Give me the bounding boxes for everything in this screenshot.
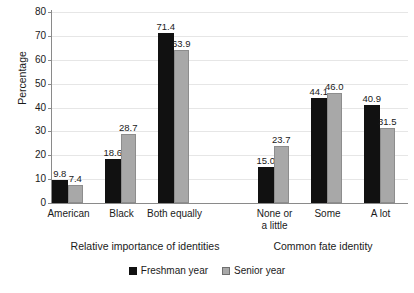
legend-swatch-senior-icon <box>222 267 230 275</box>
y-tick-mark <box>48 84 52 85</box>
bar-value-label: 63.9 <box>169 39 195 49</box>
bar-freshman <box>258 167 274 203</box>
y-tick: 30 <box>52 131 408 132</box>
y-tick-label: 50 <box>22 78 46 89</box>
legend-label-senior: Senior year <box>234 266 285 276</box>
bar-senior <box>380 128 396 203</box>
group-title: Common fate identity <box>232 240 414 252</box>
bar-value-label: 40.9 <box>359 94 385 104</box>
y-tick-label: 60 <box>22 54 46 65</box>
gridline <box>52 131 408 132</box>
y-tick: 50 <box>52 84 408 85</box>
y-tick: 70 <box>52 36 408 37</box>
y-tick-label: 10 <box>22 173 46 184</box>
legend-item-freshman: Freshman year <box>129 266 208 276</box>
y-tick: 40 <box>52 108 408 109</box>
category-label: Both equally <box>144 208 206 220</box>
y-tick-mark <box>48 155 52 156</box>
bar-freshman <box>311 98 327 203</box>
y-tick: 60 <box>52 60 408 61</box>
y-tick-label: 30 <box>22 125 46 136</box>
y-tick-mark <box>48 203 52 204</box>
y-tick-label: 70 <box>22 30 46 41</box>
gridline <box>52 84 408 85</box>
group-title: Relative importance of identities <box>30 240 260 252</box>
y-tick: 80 <box>52 12 408 13</box>
bar-value-label: 46.0 <box>322 82 348 92</box>
bar-freshman <box>105 159 121 203</box>
bar-senior <box>274 146 290 203</box>
legend-swatch-freshman-icon <box>129 267 137 275</box>
bar-freshman <box>158 33 174 203</box>
y-tick-mark <box>48 108 52 109</box>
gridline <box>52 12 408 13</box>
y-tick: 0 <box>52 203 408 204</box>
y-tick-label: 40 <box>22 102 46 113</box>
gridline <box>52 60 408 61</box>
bar-value-label: 7.4 <box>63 174 89 184</box>
bar-chart: Percentage 01020304050607080 9.87.418.62… <box>0 0 414 293</box>
bar-value-label: 31.5 <box>375 117 401 127</box>
y-tick-mark <box>48 36 52 37</box>
bar-value-label: 23.7 <box>269 135 295 145</box>
y-tick-label: 0 <box>22 197 46 208</box>
y-tick-mark <box>48 12 52 13</box>
y-tick-mark <box>48 131 52 132</box>
bar-senior <box>327 93 343 203</box>
legend: Freshman year Senior year <box>0 266 414 276</box>
gridline <box>52 108 408 109</box>
bar-value-label: 28.7 <box>116 123 142 133</box>
y-tick-mark <box>48 60 52 61</box>
category-label: A lot <box>350 208 412 220</box>
legend-label-freshman: Freshman year <box>141 266 208 276</box>
bar-value-label: 71.4 <box>153 22 179 32</box>
bar-senior <box>68 185 84 203</box>
y-tick-label: 20 <box>22 149 46 160</box>
legend-item-senior: Senior year <box>222 266 285 276</box>
plot-area: 01020304050607080 9.87.418.628.771.463.9… <box>52 12 408 203</box>
bar-senior <box>174 50 190 203</box>
y-tick-label: 80 <box>22 6 46 17</box>
gridline <box>52 36 408 37</box>
bar-senior <box>121 134 137 203</box>
